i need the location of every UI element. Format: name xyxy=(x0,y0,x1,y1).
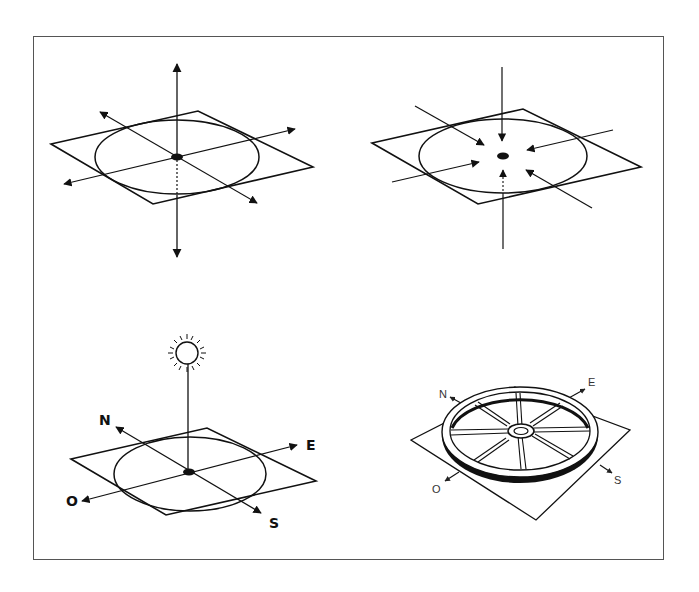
center-point xyxy=(497,153,509,160)
panel-wheel-cardinal xyxy=(411,387,630,520)
center-point xyxy=(183,469,195,476)
label-east: E xyxy=(306,437,316,453)
wheel-icon xyxy=(442,387,598,483)
label-north: N xyxy=(99,412,111,428)
center-point xyxy=(171,154,183,161)
label-west: O xyxy=(66,493,78,509)
label-east: E xyxy=(588,376,595,388)
arrow-south xyxy=(600,465,612,473)
arrow-from-se xyxy=(526,170,592,208)
panel-converging-axes xyxy=(372,67,641,249)
label-south: S xyxy=(269,515,279,531)
diagram-canvas: N E S O N E S xyxy=(0,0,699,592)
panel-radiating-axes xyxy=(51,64,313,257)
label-north: N xyxy=(439,388,447,400)
arrow-from-nw xyxy=(415,106,484,145)
sun-icon xyxy=(168,334,206,372)
arrow-west xyxy=(445,472,459,481)
label-west: O xyxy=(432,483,441,495)
label-south: S xyxy=(614,474,621,486)
